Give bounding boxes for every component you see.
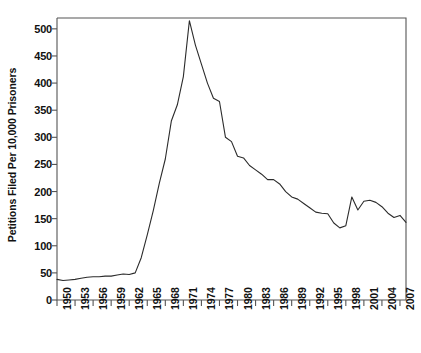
x-axis-tick-label: 1953 [79, 287, 91, 310]
x-axis-tick-label: 1974 [205, 287, 217, 310]
x-axis-tick-label: 1992 [314, 287, 326, 310]
x-axis-tick-label: 2007 [404, 287, 416, 310]
x-axis-tick-label: 2001 [368, 287, 380, 310]
x-axis-tick-label: 1983 [260, 287, 272, 310]
x-axis-tick-label: 1977 [223, 287, 235, 310]
x-axis-tick-label: 1971 [187, 287, 199, 310]
x-axis-tick-label: 1968 [169, 287, 181, 310]
x-axis-tick-label: 1965 [151, 287, 163, 310]
x-axis-tick-label: 1962 [133, 287, 145, 310]
x-axis-tick-label: 1998 [350, 287, 362, 310]
x-axis-tick-label: 1959 [115, 287, 127, 310]
chart-figure: Petitions Filed Per 10,000 Prisoners 050… [0, 0, 421, 353]
x-axis-tick-labels: 1950195319561959196219651968197119741977… [0, 0, 421, 353]
x-axis-tick-label: 2004 [386, 287, 398, 310]
x-axis-tick-label: 1995 [332, 287, 344, 310]
x-axis-tick-label: 1989 [296, 287, 308, 310]
x-axis-tick-label: 1986 [278, 287, 290, 310]
x-axis-tick-label: 1956 [97, 287, 109, 310]
x-axis-tick-label: 1980 [242, 287, 254, 310]
x-axis-tick-label: 1950 [61, 287, 73, 310]
